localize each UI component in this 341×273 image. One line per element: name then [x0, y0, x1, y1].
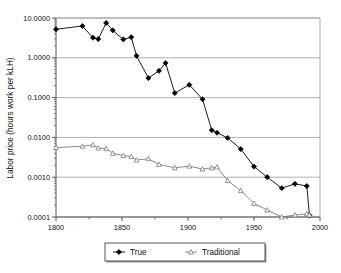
y-tick-label: 0.0100	[27, 133, 50, 142]
legend-label: True	[130, 248, 147, 257]
x-tick-label: 1850	[114, 223, 130, 232]
x-tick-label: 1900	[180, 223, 196, 232]
chart-background	[0, 0, 341, 273]
y-tick-label: 1.0000	[27, 53, 50, 62]
x-tick-label: 1950	[246, 223, 262, 232]
chart-legend: TrueTraditional	[105, 243, 267, 263]
x-tick-label: 2000	[312, 223, 328, 232]
chart-figure: 10.00001.00000.10000.01000.00100.0001 18…	[0, 0, 341, 273]
y-axis-title: Labor price (hours work per kLH)	[5, 57, 15, 179]
y-tick-label: 10.0000	[23, 14, 50, 23]
x-tick-label: 1800	[48, 223, 64, 232]
y-tick-label: 0.1000	[27, 93, 50, 102]
y-tick-label: 0.0001	[27, 213, 50, 222]
y-tick-label: 0.0010	[27, 173, 50, 182]
legend-label: Traditional	[202, 248, 240, 257]
chart-canvas: 10.00001.00000.10000.01000.00100.0001 18…	[0, 0, 341, 273]
